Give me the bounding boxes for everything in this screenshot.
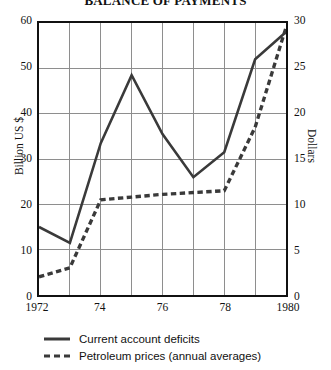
y-right-tick-5: 5 — [294, 245, 324, 256]
legend-item-0: Current account deficits — [44, 330, 324, 347]
y-left-tick-40: 40 — [2, 107, 32, 118]
y-axis-right-title: Dollars — [306, 86, 318, 206]
y-right-tick-20: 20 — [294, 107, 324, 118]
y-left-tick-50: 50 — [2, 61, 32, 72]
y-right-tick-10: 10 — [294, 199, 324, 210]
data-series-layer — [39, 23, 286, 295]
plot-area — [37, 21, 288, 297]
y-left-tick-60: 60 — [2, 15, 32, 26]
x-tick-1972: 1972 — [14, 302, 60, 313]
x-tick-78: 78 — [202, 302, 248, 313]
y-right-tick-15: 15 — [294, 153, 324, 164]
series-line-0 — [39, 32, 286, 243]
y-right-tick-25: 25 — [294, 61, 324, 72]
legend-swatch-solid — [44, 333, 70, 344]
chart-legend: Current account deficitsPetroleum prices… — [44, 330, 324, 364]
legend-label-0: Current account deficits — [79, 333, 200, 345]
series-line-1 — [39, 28, 286, 277]
y-axis-left-title: Billion US $ — [13, 86, 25, 206]
y-left-tick-30: 30 — [2, 153, 32, 164]
y-left-tick-10: 10 — [2, 245, 32, 256]
legend-swatch-dashed — [44, 350, 70, 361]
x-tick-1980: 1980 — [265, 302, 311, 313]
x-tick-76: 76 — [140, 302, 186, 313]
legend-item-1: Petroleum prices (annual averages) — [44, 347, 324, 364]
legend-label-1: Petroleum prices (annual averages) — [79, 350, 261, 362]
x-tick-74: 74 — [77, 302, 123, 313]
y-right-tick-30: 30 — [294, 15, 324, 26]
y-left-tick-20: 20 — [2, 199, 32, 210]
chart-title: BALANCE OF PAYMENTS — [0, 0, 331, 6]
